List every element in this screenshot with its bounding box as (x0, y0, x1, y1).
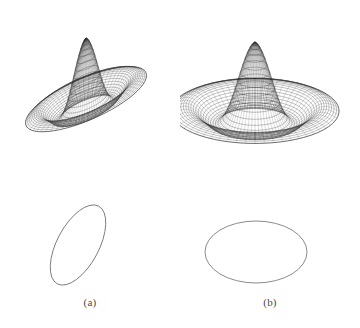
figure-panel-a: (a) (0, 0, 180, 328)
tilted-ellipse-footprint (39, 196, 117, 293)
figure-container: (a) (b) (0, 0, 360, 328)
footprint-ellipse-a-svg (0, 196, 180, 296)
footprint-ellipse-b-svg (180, 196, 360, 296)
caption-label-a: (a) (0, 296, 180, 308)
caption-label-b: (b) (180, 296, 360, 308)
surface-mesh-b-svg (180, 0, 360, 200)
footprint-plot-b (180, 196, 360, 296)
surface-mesh-a-svg (0, 0, 180, 200)
footprint-plot-a (0, 196, 180, 296)
horizontal-ellipse-footprint (205, 221, 307, 283)
figure-panel-b: (b) (180, 0, 360, 328)
surface-plot-a (0, 0, 180, 200)
surface-plot-b (180, 0, 360, 200)
